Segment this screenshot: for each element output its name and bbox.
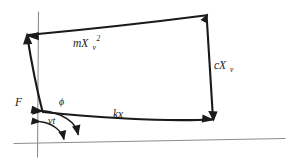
label-inertia-base: mX bbox=[73, 37, 89, 49]
arrowhead-angle-phi-end bbox=[72, 125, 80, 136]
label-angle-phi: ϕ bbox=[59, 96, 64, 107]
damping-vector-line bbox=[207, 16, 213, 119]
label-inertia-vector: mX v 2 bbox=[73, 34, 101, 52]
vector-diagram-svg: mX v 2 cX v kx F ϕ vt bbox=[0, 0, 292, 162]
force-vector-F-line bbox=[27, 36, 42, 112]
horizontal-reference-axis bbox=[14, 139, 285, 144]
arrowhead-angle-vt-start bbox=[31, 118, 42, 125]
diagram-canvas: mX v 2 cX v kx F ϕ vt bbox=[0, 0, 292, 162]
label-inertia-subscript: v bbox=[93, 43, 97, 52]
label-damping-subscript: v bbox=[230, 65, 234, 74]
label-inertia-superscript: 2 bbox=[97, 34, 101, 43]
inertia-vector-line bbox=[28, 15, 207, 35]
label-spring-vector: kx bbox=[113, 108, 124, 120]
label-force-F: F bbox=[14, 96, 23, 108]
label-damping-base: cX bbox=[214, 59, 227, 71]
label-damping-vector: cX v bbox=[214, 59, 234, 74]
label-angle-vt: vt bbox=[48, 115, 55, 126]
